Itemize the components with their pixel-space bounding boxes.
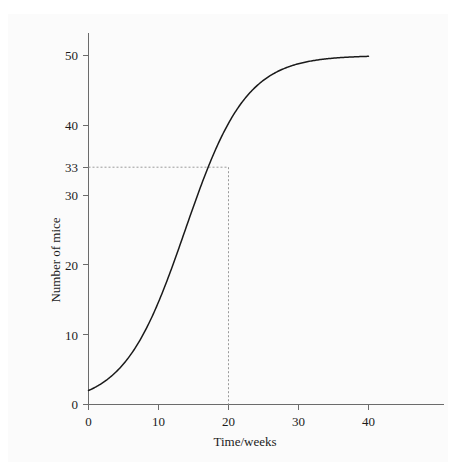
logistic-growth-chart: 50 40 33 30 20 10 0 0 10 20 30 40 Time/w… [0, 0, 456, 472]
x-tick-label-10: 10 [152, 414, 165, 429]
y-tick-label-50: 50 [65, 48, 78, 63]
x-tick-label-40: 40 [362, 414, 375, 429]
y-tick-label-10: 10 [65, 328, 78, 343]
y-axis-title: Number of mice [48, 217, 63, 302]
figure-page: 50 40 33 30 20 10 0 0 10 20 30 40 Time/w… [0, 0, 456, 472]
y-tick-label-20: 20 [65, 258, 78, 273]
y-axis-ticks [83, 56, 89, 405]
x-tick-label-20: 20 [222, 414, 235, 429]
x-tick-label-0: 0 [85, 414, 92, 429]
y-tick-label-30: 30 [65, 188, 78, 203]
chart-svg: 50 40 33 30 20 10 0 0 10 20 30 40 Time/w… [0, 0, 456, 472]
x-axis-title: Time/weeks [213, 434, 276, 449]
y-tick-label-33: 33 [65, 160, 78, 175]
x-tick-label-30: 30 [292, 414, 305, 429]
y-tick-label-40: 40 [65, 118, 78, 133]
x-axis-ticks [89, 405, 369, 411]
y-tick-label-0: 0 [72, 397, 79, 412]
